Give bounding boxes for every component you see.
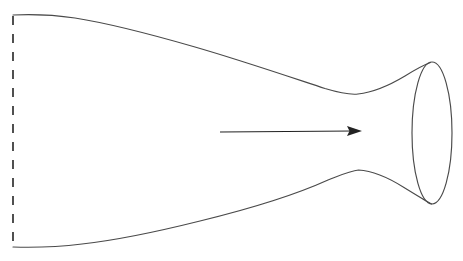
flow-direction-arrow — [220, 126, 362, 136]
lower-wall-contour — [13, 170, 432, 247]
upper-wall-contour — [13, 15, 431, 95]
exit-plane-ellipse — [412, 62, 452, 204]
flow-arrow-shaft — [220, 131, 353, 132]
nozzle-diagram-figure — [0, 0, 463, 261]
nozzle-diagram-canvas — [0, 0, 463, 261]
